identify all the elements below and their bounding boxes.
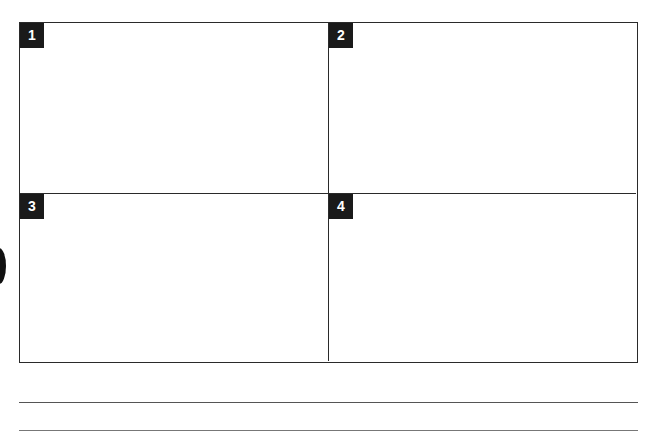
answer-line-1: [19, 402, 638, 403]
panel-4: 4: [329, 194, 636, 361]
panel-3: 3: [20, 194, 329, 361]
partial-circle-edge-mark: [0, 248, 6, 284]
panel-1: 1: [20, 23, 329, 194]
answer-line-2: [19, 430, 638, 431]
panel-number-badge: 1: [20, 23, 44, 48]
panel-number-badge: 4: [329, 194, 353, 219]
panel-2: 2: [329, 23, 636, 194]
panel-grid: 1 2 3 4: [19, 22, 638, 363]
panel-number-badge: 3: [20, 194, 44, 219]
panel-number-badge: 2: [329, 23, 353, 48]
